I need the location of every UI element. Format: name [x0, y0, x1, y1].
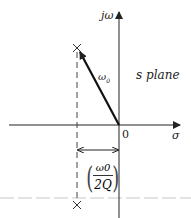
omega0-label: ω0 [98, 72, 110, 84]
dimension-label: ( ω0 2Q ) [84, 160, 122, 196]
omega0-symbol: ω [98, 71, 106, 82]
right-paren: ) [113, 160, 120, 195]
s-plane-label: s plane [136, 69, 179, 81]
omega0-subscript: 0 [106, 77, 110, 84]
sigma-label: σ [172, 130, 180, 141]
pole-upper-icon [73, 44, 81, 52]
s-plane-title: s plane [136, 68, 179, 82]
pole-lower-icon [73, 201, 81, 209]
imaginary-axis-label: jω [101, 10, 113, 21]
fraction-bar [93, 175, 113, 176]
origin-label: 0 [122, 129, 129, 140]
omega0-vector [80, 52, 119, 125]
